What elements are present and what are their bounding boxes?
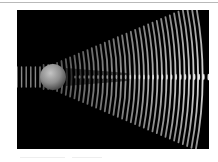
diffraction-canvas <box>17 10 209 149</box>
sphere <box>40 64 66 90</box>
caption-line <box>72 157 102 158</box>
diffraction-image <box>17 10 209 149</box>
top-divider <box>0 2 218 3</box>
caption-line <box>20 157 65 158</box>
